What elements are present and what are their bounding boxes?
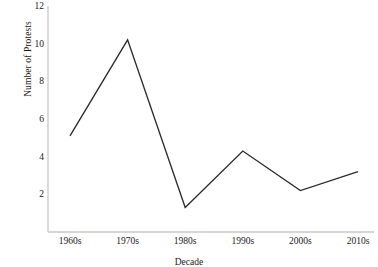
x-tick-label: 1980s	[174, 236, 197, 246]
x-tick-label: 1970s	[116, 236, 139, 246]
data-line-series	[70, 40, 358, 208]
x-tick-label: 2000s	[289, 236, 312, 246]
x-tick-label: 2010s	[347, 236, 370, 246]
x-axis-title: Decade	[0, 257, 378, 267]
x-tick-label: 1960s	[59, 236, 82, 246]
x-tick-label: 1990s	[231, 236, 254, 246]
